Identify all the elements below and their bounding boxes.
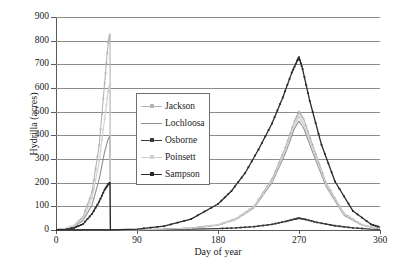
legend-swatch-icon [141, 118, 162, 129]
y-axis-tick-label: 900 [35, 12, 49, 22]
legend-swatch-icon [141, 135, 162, 146]
series-line-poinsett [56, 83, 380, 230]
y-axis-tick-label: 100 [35, 202, 49, 212]
x-axis-tick-label: 360 [373, 236, 387, 246]
legend-item-sampson[interactable]: Sampson [137, 166, 209, 183]
legend-swatch-icon [141, 101, 162, 112]
legend-label: Lochloosa [165, 119, 205, 129]
legend-label: Osborne [165, 136, 197, 146]
y-axis-tick-label: 600 [35, 83, 49, 93]
y-axis-title-wrapper: Hydrilla (acres) [0, 17, 16, 230]
x-axis-tick-label: 270 [292, 236, 306, 246]
chart-figure: Hydrilla (acres) 01002003004005006007008… [0, 0, 397, 274]
plot-area: 0100200300400500600700800900 09018027036… [56, 17, 380, 230]
legend-label: Jackson [165, 102, 195, 112]
legend-swatch-icon [141, 152, 162, 163]
legend-swatch-icon [141, 169, 162, 180]
y-axis-tick-label: 200 [35, 178, 49, 188]
legend-label: Poinsett [165, 153, 196, 163]
x-axis-tick [299, 230, 300, 234]
series-markers-sampson [71, 56, 379, 229]
legend-item-lochloosa[interactable]: Lochloosa [137, 115, 209, 132]
x-axis-tick-label: 0 [54, 236, 59, 246]
y-axis-tick-label: 400 [35, 131, 49, 141]
series-curves [56, 17, 380, 230]
y-axis-title: Hydrilla (acres) [28, 92, 39, 155]
x-axis-tick [56, 230, 57, 234]
x-axis-tick-label: 90 [132, 236, 142, 246]
y-axis-tick-label: 0 [44, 225, 49, 235]
x-axis-tick-label: 180 [211, 236, 225, 246]
legend-item-jackson[interactable]: Jackson [137, 98, 209, 115]
series-line-jackson [56, 34, 380, 230]
series-line-lochloosa [56, 121, 380, 230]
y-axis-tick-label: 800 [35, 36, 49, 46]
y-axis-tick-label: 500 [35, 107, 49, 117]
y-axis-tick-label: 300 [35, 154, 49, 164]
x-axis-tick [380, 230, 381, 234]
x-axis-tick [137, 230, 138, 234]
legend-item-osborne[interactable]: Osborne [137, 132, 209, 149]
y-axis-tick-label: 700 [35, 60, 49, 70]
chart-legend: JacksonLochloosaOsbornePoinsettSampson [136, 93, 210, 185]
legend-item-poinsett[interactable]: Poinsett [137, 149, 209, 166]
series-markers-poinsett [66, 84, 376, 229]
legend-label: Sampson [165, 170, 200, 180]
x-axis-tick [218, 230, 219, 234]
x-axis-title: Day of year [56, 246, 380, 257]
